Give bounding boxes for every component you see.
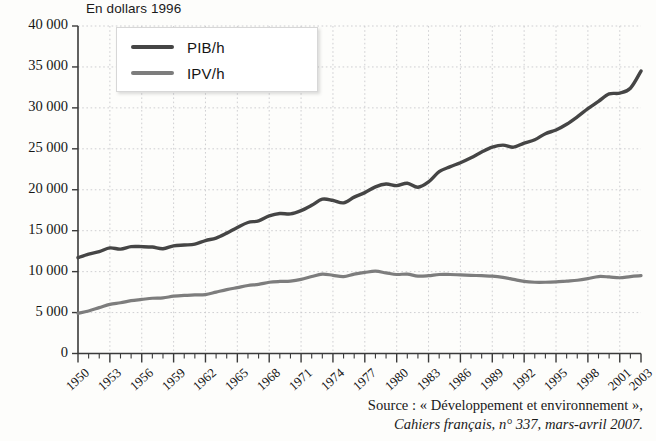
legend-entry-ipv: IPV/h (131, 62, 225, 84)
source-note: Source : « Développement et environnemen… (0, 396, 643, 434)
legend-label-ipv: IPV/h (187, 65, 225, 82)
source-line-1: Source : « Développement et environnemen… (368, 397, 643, 413)
legend-swatch-pib (131, 45, 174, 49)
legend-box: PIB/h IPV/h (116, 27, 318, 92)
legend-entry-pib: PIB/h (131, 36, 225, 58)
legend-swatch-ipv (131, 71, 174, 75)
source-line-2: Cahiers français, n° 337, mars-avril 200… (0, 415, 643, 434)
legend-label-pib: PIB/h (187, 39, 225, 56)
